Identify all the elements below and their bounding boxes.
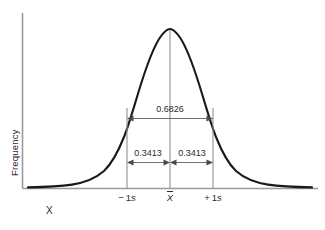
mean-symbol: X bbox=[167, 191, 173, 203]
y-axis-label: Frequency bbox=[10, 117, 20, 189]
x-tick-label-plus-1s: + 1s bbox=[192, 193, 234, 203]
tick-unit: s bbox=[217, 192, 222, 203]
dimension-label-total: 0.6826 bbox=[146, 105, 194, 114]
dimension-label-left: 0.3413 bbox=[125, 149, 171, 158]
tick-unit: s bbox=[131, 192, 136, 203]
x-tick-label-mean: X bbox=[150, 191, 190, 203]
x-axis-label: X bbox=[46, 206, 53, 216]
normal-distribution-figure: Frequency X 0.6826 0.3413 0.3413 − 1s X … bbox=[0, 0, 325, 230]
dimension-line-left bbox=[127, 160, 170, 166]
dimension-line-right bbox=[170, 160, 213, 166]
x-tick-label-minus-1s: − 1s bbox=[106, 193, 148, 203]
dimension-label-right: 0.3413 bbox=[169, 149, 215, 158]
